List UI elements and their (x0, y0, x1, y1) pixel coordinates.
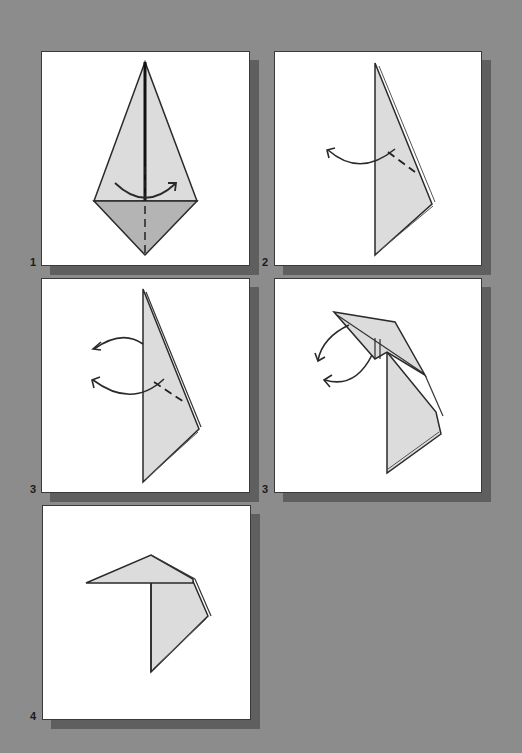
panel-frame (274, 51, 482, 266)
panel-frame (42, 505, 251, 720)
fold-arrow-icon (318, 325, 349, 360)
step-number: 3 (258, 483, 272, 495)
kite-base-illustration (42, 52, 251, 267)
step-number: 3 (26, 483, 40, 495)
reverse-fold-illustration (42, 279, 251, 494)
step-number: 1 (26, 256, 40, 268)
finished-fold-illustration (43, 506, 252, 721)
panel-frame (41, 278, 250, 493)
panel-frame (41, 51, 250, 266)
fold-arrow-icon (325, 355, 372, 382)
partial-fold-illustration (275, 279, 483, 494)
half-fold-illustration (275, 52, 483, 267)
step-number: 4 (26, 710, 40, 722)
step-number: 2 (258, 256, 272, 268)
panel-frame (274, 278, 482, 493)
fold-arrow-icon (94, 338, 143, 349)
